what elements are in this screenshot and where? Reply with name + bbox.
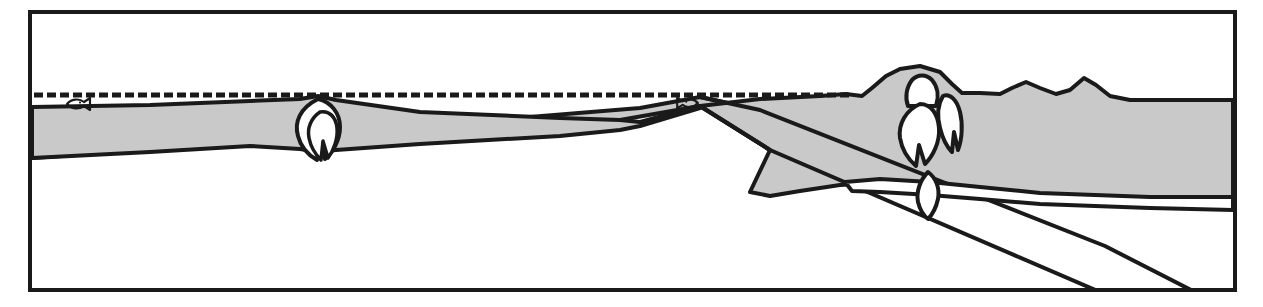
cross-section-diagram bbox=[0, 0, 1263, 307]
magma-conduit-volcano bbox=[906, 76, 937, 107]
geologic-cross-section-figure bbox=[0, 0, 1263, 307]
magma-body-deep bbox=[917, 172, 938, 219]
